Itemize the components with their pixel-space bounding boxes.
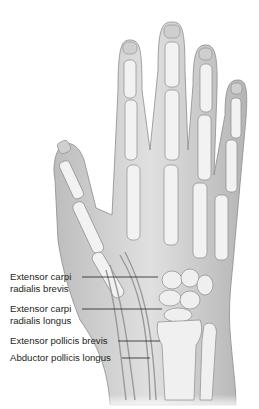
- label-line: Extensor carpi: [10, 271, 71, 283]
- label-extensor-pollicis-brevis: Extensor pollicis brevis: [10, 335, 108, 347]
- hand-anatomy-figure: Extensor carpi radialis brevis Extensor …: [0, 0, 259, 409]
- label-abductor-pollicis-longus: Abductor pollicis longus: [10, 352, 111, 364]
- forearm-bones: [157, 320, 216, 400]
- label-line: Abductor pollicis longus: [10, 352, 111, 364]
- label-line: radialis longus: [10, 315, 71, 327]
- label-extensor-carpi-radialis-brevis: Extensor carpi radialis brevis: [10, 271, 71, 294]
- label-line: radialis brevis: [10, 283, 71, 295]
- hand-illustration: [0, 0, 259, 409]
- label-line: Extensor carpi: [10, 303, 71, 315]
- label-line: Extensor pollicis brevis: [10, 335, 108, 347]
- label-extensor-carpi-radialis-longus: Extensor carpi radialis longus: [10, 303, 71, 326]
